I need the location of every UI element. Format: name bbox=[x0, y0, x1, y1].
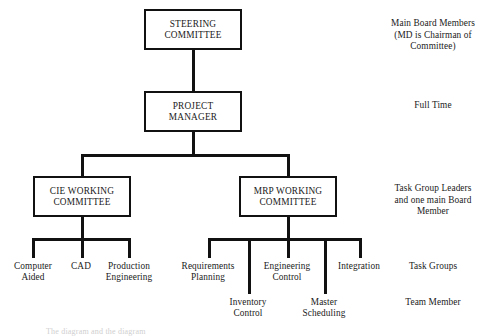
annotation-project-manager: Full Time bbox=[372, 100, 494, 112]
node-cie-working-committee: CIE WORKING COMMITTEE bbox=[33, 176, 131, 217]
connector-mrp-drop-integration bbox=[359, 238, 362, 258]
connector-bus-to-mrp-working-committee bbox=[287, 154, 290, 176]
connector-cie-stem bbox=[81, 217, 84, 239]
annotation-working-committees: Task Group Leaders and one main Board Me… bbox=[372, 183, 494, 218]
connector-bus-to-cie-working-committee bbox=[81, 154, 84, 176]
figure-caption: The diagram and the diagram bbox=[46, 327, 346, 336]
leaf-engineering-control: Engineering Control bbox=[254, 261, 320, 283]
annotation-team-member: Team Member bbox=[372, 297, 494, 309]
node-steering-committee: STEERING COMMITTEE bbox=[144, 9, 242, 50]
connector-mrp-bus bbox=[208, 238, 362, 241]
node-steering-committee-label: STEERING COMMITTEE bbox=[164, 19, 221, 41]
annotation-steering-committee: Main Board Members (MD is Chairman of Co… bbox=[372, 18, 494, 53]
org-chart-diagram: STEERING COMMITTEE PROJECT MANAGER CIE W… bbox=[0, 0, 496, 336]
connector-level3-bus bbox=[81, 154, 290, 157]
annotation-task-groups: Task Groups bbox=[372, 261, 494, 273]
node-mrp-working-committee: MRP WORKING COMMITTEE bbox=[239, 176, 337, 217]
connector-mrp-drop-engineering-control bbox=[287, 238, 290, 258]
node-project-manager: PROJECT MANAGER bbox=[144, 91, 242, 132]
leaf-requirements-planning: Requirements Planning bbox=[173, 261, 243, 283]
connector-cie-drop-3 bbox=[128, 238, 131, 258]
connector-cie-drop-2 bbox=[81, 238, 84, 258]
connector-cie-drop-1 bbox=[32, 238, 35, 258]
node-cie-working-committee-label: CIE WORKING COMMITTEE bbox=[50, 186, 114, 208]
connector-project-manager-stem bbox=[192, 132, 195, 156]
connector-mrp-drop-requirements-planning bbox=[208, 238, 211, 258]
leaf-master-scheduling: Master Scheduling bbox=[290, 297, 358, 319]
connector-mrp-drop-inventory-control bbox=[248, 238, 251, 294]
connector-steering-to-project-manager bbox=[192, 50, 195, 91]
node-project-manager-label: PROJECT MANAGER bbox=[169, 101, 217, 123]
connector-mrp-drop-master-scheduling bbox=[324, 238, 327, 294]
connector-mrp-stem bbox=[287, 217, 290, 239]
node-mrp-working-committee-label: MRP WORKING COMMITTEE bbox=[254, 186, 323, 208]
leaf-inventory-control: Inventory Control bbox=[216, 297, 280, 319]
leaf-production-engineering: Production Engineering bbox=[95, 261, 163, 283]
